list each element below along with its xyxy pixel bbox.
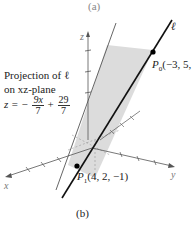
- y-axis-label: y: [171, 170, 175, 180]
- z-axis-arrow: [86, 31, 90, 37]
- line-l-label: ℓ: [171, 21, 176, 32]
- projection-equation: z = − 9x 7 + 29 7: [4, 95, 71, 116]
- projection-subtitle: on xz-plane: [4, 84, 56, 95]
- p0-label: P0(−3, 5, ·: [152, 59, 192, 73]
- x-axis-label: x: [4, 181, 8, 191]
- x-axis-arrow: [5, 173, 12, 178]
- point-p1: [74, 163, 79, 168]
- projection-plane: [68, 45, 153, 178]
- projection-title: Projection of ℓ: [4, 70, 69, 81]
- fraction-29-7: 29 7: [58, 95, 70, 116]
- z-axis-label: z: [80, 32, 84, 42]
- p1-label: P1(4, 2, −1): [77, 171, 128, 185]
- caption-b: (b): [76, 208, 89, 219]
- point-p0: [150, 49, 155, 54]
- fraction-9x-7: 9x 7: [32, 95, 43, 116]
- y-axis-arrow: [168, 163, 175, 168]
